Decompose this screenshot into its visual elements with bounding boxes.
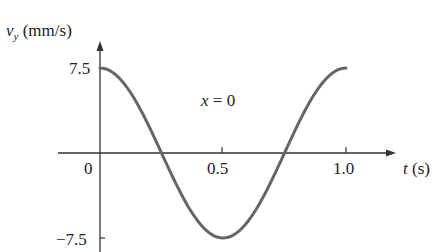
x-tick-label-one: 1.0 [333, 160, 354, 177]
v-axis-arrow-icon [97, 41, 104, 51]
t-axis-arrow-icon [386, 150, 396, 157]
annotation-rest: = 0 [209, 91, 236, 110]
x-tick-label-half: 0.5 [207, 160, 228, 177]
x-axis-unit: (s) [408, 159, 430, 178]
origin-label: 0 [84, 160, 93, 177]
annotation-var: x [201, 91, 209, 110]
annotation: x = 0 [201, 92, 235, 109]
y-axis-label: vy (mm/s) [6, 22, 72, 42]
x-axis-label: t (s) [403, 160, 430, 177]
y-tick-label-min: −7.5 [56, 231, 87, 248]
y-tick-label-max: 7.5 [69, 60, 90, 77]
y-axis-unit: (mm/s) [18, 21, 71, 40]
y-axis-var: v [6, 21, 14, 40]
